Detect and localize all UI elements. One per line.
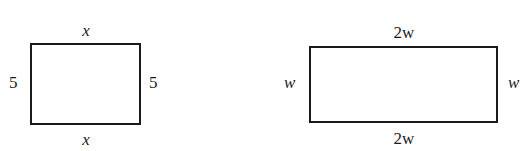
rect2-left-label: w: [284, 74, 295, 91]
rect2-top-label: 2w: [394, 24, 415, 41]
rect2-bottom-label: 2w: [394, 130, 415, 147]
rect2-bottom-var: w: [402, 129, 414, 148]
rect1-left-label: 5: [9, 74, 18, 91]
rect2-top-coef: 2: [394, 23, 403, 42]
rect2-top-var: w: [402, 23, 414, 42]
rect2-right-label: w: [508, 74, 519, 91]
rect1-bottom-label: x: [82, 131, 90, 148]
rectangle-2: [309, 46, 498, 123]
rect1-top-label: x: [82, 22, 90, 39]
rect2-bottom-coef: 2: [394, 129, 403, 148]
rectangle-1: [30, 43, 141, 125]
rect1-right-label: 5: [149, 74, 158, 91]
